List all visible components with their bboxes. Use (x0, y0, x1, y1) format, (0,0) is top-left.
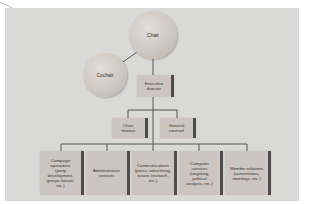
node-cochair-label: Cochair (96, 72, 113, 78)
node-general-counsel-label: General counsel (169, 123, 184, 133)
box-accent-bar (127, 151, 130, 195)
node-administrative-services: Administrative services (86, 151, 130, 195)
node-member-relations: Member relations (conventions, meetings,… (225, 151, 271, 195)
box-accent-bar (81, 151, 84, 195)
node-communications-label: Communications (press, advertising, issu… (135, 163, 171, 183)
node-member-relations-label: Member relations (conventions, meetings,… (230, 166, 263, 181)
box-accent-bar (145, 118, 148, 138)
node-chair-label: Chair (147, 32, 159, 38)
box-accent-bar (220, 151, 223, 195)
node-administrative-services-label: Administrative services (93, 168, 120, 178)
node-campaign-operations: Campaign operations (party development, … (40, 151, 84, 195)
node-chair-finance-label: Chair, finance (122, 123, 136, 133)
node-chair: Chair (129, 11, 177, 59)
node-executive-director: Executive director (137, 75, 174, 97)
node-campaign-operations-label: Campaign operations (party development, … (47, 158, 75, 188)
box-accent-bar (193, 118, 196, 138)
box-accent-bar (174, 151, 177, 195)
node-computer-services-label: Computer services (targeting, political … (186, 161, 212, 186)
node-general-counsel: General counsel (160, 118, 196, 138)
node-executive-director-label: Executive director (145, 81, 164, 91)
node-chair-finance: Chair, finance (112, 118, 148, 138)
box-accent-bar (171, 75, 174, 97)
box-accent-bar (268, 151, 271, 195)
node-computer-services: Computer services (targeting, political … (179, 151, 223, 195)
node-cochair: Cochair (83, 53, 127, 97)
node-communications: Communications (press, advertising, issu… (132, 151, 177, 195)
